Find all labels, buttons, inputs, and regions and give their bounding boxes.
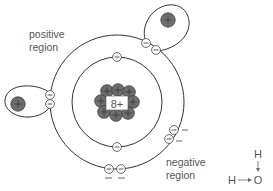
electron-icon [113,143,122,152]
proton-icon [95,95,108,108]
bond-formula: H H O [228,148,263,186]
positive-region-line-1: positive [29,28,65,41]
lone-pair-electron-icon [170,126,179,135]
shared-electron-icon [46,91,55,100]
hydrogen-atom-left [5,86,50,117]
arrow-right-head-icon [248,178,252,182]
formula-left-hydrogen: H [228,174,236,186]
positive-region-label: positive region [29,28,65,54]
shared-electron-icon [46,100,55,109]
positive-region-line-2: region [29,41,65,54]
shared-electron-icon [142,39,151,48]
electron-icon [113,53,122,62]
negative-region-line-2: region [166,169,206,182]
hydrogen-left-proton-icon [11,97,25,111]
proton-icon [110,109,123,122]
arrow-down-head-icon [256,168,260,172]
shared-electron-icon [152,46,161,55]
negative-region-label: negative region [166,156,206,182]
formula-top-hydrogen: H [254,148,262,160]
nucleus-charge-label: 8+ [111,98,124,110]
oxygen-nucleus: 8+ [95,84,140,122]
lone-pair-electron-icon [105,165,114,174]
formula-oxygen: O [254,174,263,186]
hydrogen-top-right-proton-icon [161,13,175,27]
lone-pair-electron-icon [117,165,126,174]
negative-region-line-1: negative [166,156,206,169]
lone-pair-electron-icon [165,135,174,144]
proton-icon [112,84,125,97]
